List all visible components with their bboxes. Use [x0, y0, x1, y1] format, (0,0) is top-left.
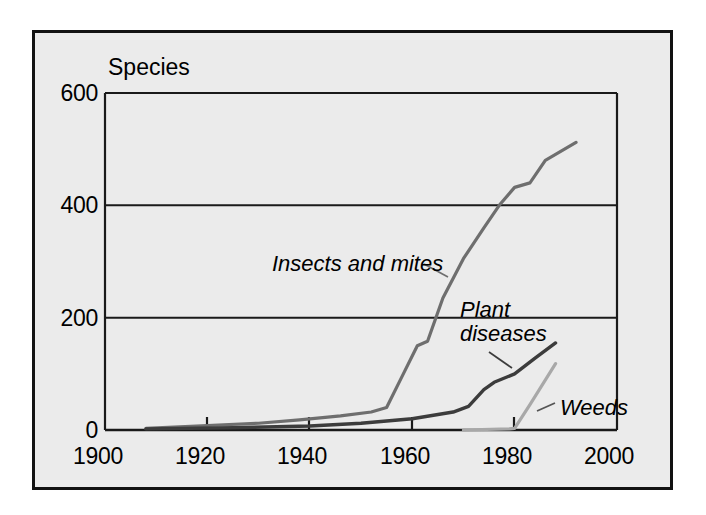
y-tick-label-200: 200 [40, 305, 98, 332]
y-tick-label-400: 400 [40, 192, 98, 219]
series-label-plant-diseases-line1: Plant [460, 298, 510, 323]
x-tick-label-2000: 2000 [584, 443, 634, 470]
series-label-insects-and-mites: Insects and mites [272, 252, 443, 277]
x-tick-label-1900: 1900 [73, 443, 123, 470]
x-tick-label-1920: 1920 [175, 443, 225, 470]
y-tick-label-600: 600 [40, 80, 98, 107]
series-label-weeds: Weeds [560, 396, 628, 421]
x-tick-label-1960: 1960 [380, 443, 430, 470]
y-tick-label-0: 0 [40, 417, 98, 444]
series-label-plant-diseases-line2: diseases [460, 322, 547, 347]
x-tick-label-1980: 1980 [482, 443, 532, 470]
y-axis-title: Species [108, 54, 190, 81]
chart-figure: Species 600 400 200 0 1900 1920 1940 196… [0, 0, 706, 515]
x-tick-label-1940: 1940 [277, 443, 327, 470]
